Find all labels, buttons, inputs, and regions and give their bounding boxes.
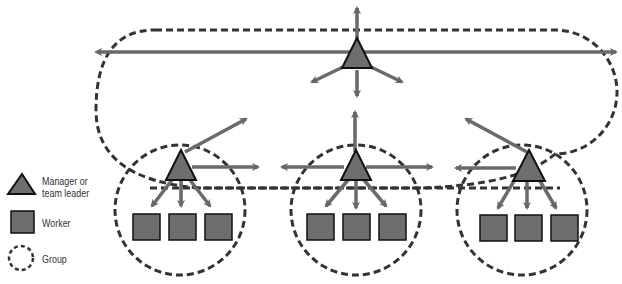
left-worker-2 bbox=[169, 214, 196, 240]
center-worker-1 bbox=[307, 214, 334, 240]
organization-diagram bbox=[0, 0, 622, 284]
right-worker-1 bbox=[480, 215, 507, 241]
legend-manager-label: Manager or team leader bbox=[42, 175, 89, 199]
right-worker-3 bbox=[551, 215, 578, 241]
center-manager-triangle bbox=[341, 150, 371, 180]
legend-worker-icon bbox=[11, 211, 34, 233]
legend-group-icon bbox=[9, 246, 33, 270]
center-worker-3 bbox=[379, 214, 406, 240]
right-worker-2 bbox=[515, 215, 542, 241]
left-manager-triangle bbox=[166, 150, 196, 180]
left-worker-3 bbox=[205, 214, 232, 240]
legend-group-label: Group bbox=[42, 253, 67, 265]
right-manager-triangle bbox=[513, 150, 545, 181]
legend-worker-label: Worker bbox=[42, 217, 71, 229]
center-worker-2 bbox=[343, 214, 370, 240]
legend-manager-icon bbox=[8, 174, 35, 194]
left-worker-1 bbox=[133, 214, 160, 240]
